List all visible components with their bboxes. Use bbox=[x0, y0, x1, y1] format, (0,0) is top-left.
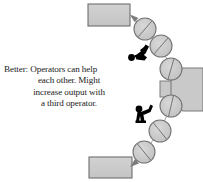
caption-text: Better: Operators can help each other. M… bbox=[4, 64, 112, 110]
operator-2-icon bbox=[136, 105, 154, 124]
caption-line-2: each other. Might bbox=[4, 75, 112, 86]
input-box-top bbox=[88, 4, 130, 26]
caption-line-1: Better: Operators can help bbox=[4, 64, 112, 75]
workstation-2 bbox=[150, 35, 172, 57]
workstation-1 bbox=[134, 18, 156, 40]
workstation-6 bbox=[133, 141, 155, 163]
workstation-4 bbox=[160, 95, 182, 117]
workstation-5 bbox=[149, 120, 171, 142]
operator-1-icon bbox=[128, 45, 149, 61]
caption-line-3: increase output with bbox=[4, 87, 112, 98]
output-box-bottom bbox=[89, 157, 132, 178]
caption-line-4: a third operator. bbox=[4, 98, 112, 109]
workstation-3 bbox=[160, 58, 182, 80]
work-cell-diagram: Better: Operators can help each other. M… bbox=[0, 0, 203, 182]
